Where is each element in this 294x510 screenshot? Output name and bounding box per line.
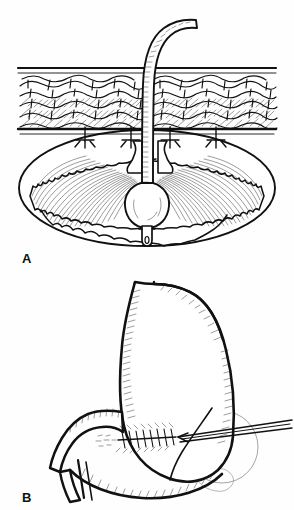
figure-root: A	[0, 0, 294, 510]
panel-a: A	[18, 20, 277, 266]
panel-b: B	[22, 282, 292, 505]
medical-illustration-svg: A	[0, 0, 294, 510]
panel-b-label: B	[22, 490, 31, 505]
panel-a-label: A	[22, 251, 32, 266]
duodenum-notch-inner	[86, 462, 92, 500]
suture-tail-dashes	[96, 435, 116, 446]
abdominal-wall-texture-left	[20, 75, 145, 129]
retention-balloon	[125, 183, 169, 228]
abdominal-wall-texture-right	[152, 75, 277, 129]
